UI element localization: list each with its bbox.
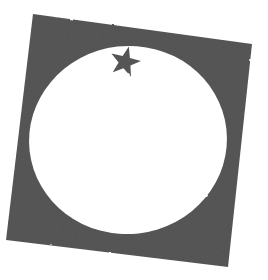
artwork-group [0, 0, 268, 280]
shape-illustration-svg [0, 0, 268, 280]
figure-canvas [0, 0, 268, 280]
rotated-square-with-cutout [0, 0, 268, 280]
